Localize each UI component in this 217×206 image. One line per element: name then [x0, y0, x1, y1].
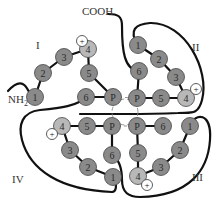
- svg-text:2: 2: [41, 68, 46, 79]
- svg-text:5: 5: [85, 121, 90, 132]
- svg-text:3: 3: [62, 52, 67, 63]
- svg-text:3: 3: [174, 72, 179, 83]
- svg-text:+: +: [49, 129, 54, 139]
- svg-text:+: +: [79, 36, 84, 46]
- svg-text:4: 4: [60, 121, 65, 132]
- svg-text:+: +: [193, 84, 198, 94]
- domain-label-II: II: [192, 42, 199, 53]
- svg-text:4: 4: [86, 44, 91, 55]
- svg-text:+: +: [144, 180, 149, 190]
- positive-charge-icon: +: [77, 36, 88, 47]
- svg-text:5: 5: [87, 68, 92, 79]
- svg-text:4: 4: [184, 93, 189, 104]
- helix-node-I-6: 6: [78, 89, 95, 106]
- svg-text:1: 1: [111, 172, 116, 183]
- svg-text:1: 1: [33, 92, 38, 103]
- svg-text:3: 3: [159, 162, 164, 173]
- helix-node-III-6: 6: [155, 118, 172, 135]
- positive-charge-icon: +: [191, 84, 202, 95]
- positive-charge-icon: +: [142, 180, 153, 191]
- svg-text:5: 5: [159, 93, 164, 104]
- domain-label-III: III: [192, 172, 203, 183]
- svg-text:2: 2: [157, 54, 162, 65]
- helix-node-II-1: 1: [130, 37, 147, 54]
- diagram-canvas: 1234+5P61234+5P61234+5P61234+5P6: [0, 0, 217, 206]
- helix-node-I-2: 2: [35, 65, 52, 82]
- helix-node-II-3: 3: [168, 69, 185, 86]
- svg-text:6: 6: [110, 150, 115, 161]
- helix-node-I-5: 5: [81, 65, 98, 82]
- nh2-subscript: 2: [24, 99, 28, 108]
- helix-node-IV-3: 3: [62, 142, 79, 159]
- svg-text:1: 1: [188, 121, 193, 132]
- helix-node-IV-5: 5: [79, 118, 96, 135]
- svg-text:5: 5: [136, 148, 141, 159]
- domain-label-IV: IV: [12, 174, 24, 185]
- cooh-terminus-label: COOH: [82, 6, 113, 17]
- svg-text:3: 3: [68, 145, 73, 156]
- helix-node-III-5: 5: [130, 145, 147, 162]
- svg-text:P: P: [134, 93, 140, 104]
- helix-node-III-1: 1: [182, 118, 199, 135]
- helix-node-II-2: 2: [151, 51, 168, 68]
- svg-text:6: 6: [137, 66, 142, 77]
- helix-node-I-3: 3: [56, 49, 73, 66]
- helix-node-I-1: 1: [27, 89, 44, 106]
- nh2-text: NH: [8, 93, 24, 105]
- positive-charge-icon: +: [47, 129, 58, 140]
- helix-node-III-2: 2: [172, 142, 189, 159]
- svg-text:4: 4: [136, 171, 141, 182]
- helix-node-IV-1: 1: [105, 169, 122, 186]
- nh2-terminus-label: NH2: [8, 94, 28, 108]
- ion-channel-topology-diagram: 1234+5P61234+5P61234+5P61234+5P6 COOH NH…: [0, 0, 217, 206]
- helix-node-I-P: P: [105, 89, 122, 106]
- svg-text:P: P: [134, 121, 140, 132]
- svg-text:1: 1: [136, 40, 141, 51]
- helix-node-IV-6: 6: [104, 147, 121, 164]
- helix-node-II-6: 6: [131, 63, 148, 80]
- svg-text:2: 2: [178, 145, 183, 156]
- domain-label-I: I: [36, 40, 40, 51]
- svg-text:6: 6: [161, 121, 166, 132]
- helix-node-III-P: P: [129, 118, 146, 135]
- helix-node-II-P: P: [129, 90, 146, 107]
- svg-text:P: P: [110, 92, 116, 103]
- helix-node-II-5: 5: [153, 90, 170, 107]
- helix-node-III-3: 3: [153, 159, 170, 176]
- helix-node-IV-P: P: [104, 118, 121, 135]
- svg-text:6: 6: [84, 92, 89, 103]
- helix-node-IV-2: 2: [80, 159, 97, 176]
- svg-text:2: 2: [86, 162, 91, 173]
- svg-text:P: P: [109, 121, 115, 132]
